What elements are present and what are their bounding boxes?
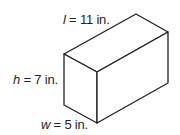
height-variable: h xyxy=(13,72,20,87)
height-label: h = 7 in. xyxy=(13,73,58,87)
prism-figure: l = 11 in. h = 7 in. w = 5 in. xyxy=(0,0,180,135)
width-variable: w xyxy=(41,117,50,132)
length-label: l = 11 in. xyxy=(63,13,110,27)
length-value: = 11 in. xyxy=(66,12,110,27)
width-label: w = 5 in. xyxy=(41,118,88,132)
width-value: = 5 in. xyxy=(50,117,88,132)
height-value: = 7 in. xyxy=(20,72,58,87)
